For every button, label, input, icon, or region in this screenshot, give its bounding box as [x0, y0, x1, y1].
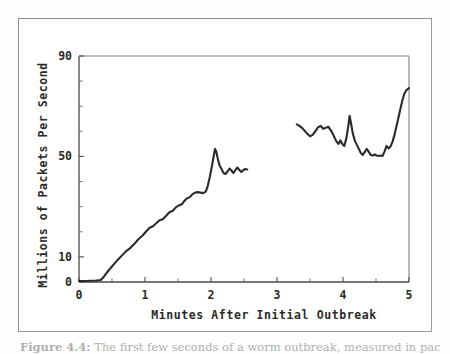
figure-root: 0105090012345 Minutes After Initial Outb…	[0, 0, 450, 354]
y-axis-label: Millions of Packets Per Second	[36, 62, 50, 288]
chart-tick-labels: 0105090012345	[58, 49, 412, 302]
y-tick-label: 0	[65, 275, 72, 289]
x-tick-label: 4	[340, 288, 347, 302]
y-tick-label: 90	[58, 49, 72, 63]
series-outbreak-sustained	[297, 88, 409, 156]
chart-series	[79, 88, 409, 281]
y-tick-label: 10	[58, 250, 72, 264]
line-chart: 0105090012345 Minutes After Initial Outb…	[19, 19, 433, 333]
figure-frame: 0105090012345 Minutes After Initial Outb…	[18, 18, 432, 332]
y-tick-label: 50	[58, 149, 72, 163]
x-tick-label: 2	[208, 288, 215, 302]
x-axis-label: Minutes After Initial Outbreak	[151, 308, 377, 322]
x-tick-label: 5	[406, 288, 413, 302]
series-outbreak-ramp	[79, 149, 247, 281]
figure-caption: Figure 4.4: The first few seconds of a w…	[20, 341, 440, 354]
x-tick-label: 0	[76, 288, 83, 302]
figure-caption-label: Figure 4.4:	[20, 341, 91, 354]
x-tick-label: 1	[142, 288, 149, 302]
x-tick-label: 3	[274, 288, 281, 302]
figure-caption-text: The first few seconds of a worm outbreak…	[94, 341, 440, 354]
